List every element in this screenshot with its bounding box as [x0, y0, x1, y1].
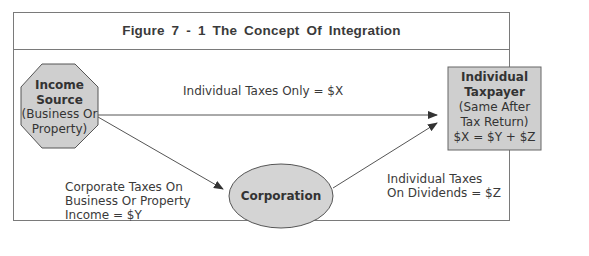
- dividends-line-1: Individual Taxes: [387, 172, 501, 186]
- income-source-label: Income Source (Business Or Property): [21, 78, 98, 136]
- income-source-title-2: Source: [36, 93, 83, 107]
- corporation-label: Corporation: [229, 189, 333, 204]
- taxpayer-sub-3: $X = $Y + $Z: [448, 130, 541, 145]
- corporate-tax-line-2: Business Or Property: [65, 194, 191, 208]
- income-source-sub-1: (Business Or: [21, 107, 98, 122]
- income-source-title-1: Income: [35, 78, 84, 92]
- direct-edge-label: Individual Taxes Only = $X: [183, 84, 343, 98]
- corporation-title: Corporation: [241, 189, 321, 203]
- taxpayer-sub-1: (Same After: [448, 100, 541, 115]
- dividends-label: Individual Taxes On Dividends = $Z: [387, 172, 501, 200]
- corporate-tax-line-3: Income = $Y: [65, 208, 191, 222]
- taxpayer-title-1: Individual: [461, 70, 528, 84]
- corporate-tax-line-1: Corporate Taxes On: [65, 180, 191, 194]
- taxpayer-title-2: Taxpayer: [464, 85, 525, 99]
- individual-taxpayer-label: Individual Taxpayer (Same After Tax Retu…: [448, 70, 541, 145]
- taxpayer-sub-2: Tax Return): [448, 115, 541, 130]
- income-source-sub-2: Property): [21, 122, 98, 137]
- corporate-tax-label: Corporate Taxes On Business Or Property …: [65, 180, 191, 222]
- corporation-arrow: [98, 117, 223, 189]
- dividends-line-2: On Dividends = $Z: [387, 186, 501, 200]
